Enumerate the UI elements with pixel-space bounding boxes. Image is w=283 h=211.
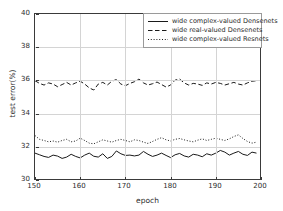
y-axis-tick-label: 30 [14, 175, 30, 184]
legend-label: wide real-valued Densenets [169, 26, 262, 35]
series-line-2 [35, 135, 256, 144]
x-axis-label: epoch [34, 196, 261, 205]
x-axis-tick-label: 180 [163, 182, 176, 191]
y-axis-tick [36, 14, 39, 15]
figure-canvas: 150160170180190200 303234363840 epoch te… [0, 0, 283, 211]
legend-item[interactable]: wide complex-valued Densenets [147, 17, 257, 26]
legend-item[interactable]: wide real-valued Densenets [147, 26, 257, 35]
y-axis-tick [36, 47, 39, 48]
legend-line-sample-dashed [147, 26, 169, 35]
y-axis-tick [36, 180, 39, 181]
x-axis-tick [171, 177, 172, 180]
gridline-horizontal [35, 147, 260, 148]
x-axis-tick-label: 170 [117, 182, 130, 191]
x-axis-tick [125, 177, 126, 180]
gridline-horizontal [35, 80, 260, 81]
x-axis-tick-label: 200 [253, 182, 266, 191]
x-axis-tick-label: 190 [208, 182, 221, 191]
gridline-vertical [125, 14, 126, 179]
x-axis-tick-label: 160 [72, 182, 85, 191]
y-axis-label: test error(%) [8, 54, 17, 134]
x-axis-tick [216, 177, 217, 180]
y-axis-tick-label: 40 [14, 9, 30, 18]
y-axis-tick-label: 38 [14, 42, 30, 51]
y-axis-tick [36, 147, 39, 148]
x-axis-tick [80, 177, 81, 180]
gridline-vertical [80, 14, 81, 179]
y-axis-tick [36, 114, 39, 115]
y-axis-tick [36, 80, 39, 81]
legend-line-sample-solid [147, 17, 169, 26]
chart-legend: wide complex-valued Densenets wide real-… [143, 13, 262, 48]
legend-label: wide complex-valued Resnets [169, 35, 269, 44]
x-axis-tick [261, 177, 262, 180]
legend-item[interactable]: wide complex-valued Resnets [147, 35, 257, 44]
gridline-horizontal [35, 114, 260, 115]
y-axis-tick-label: 32 [14, 142, 30, 151]
legend-line-sample-dotted [147, 35, 169, 44]
series-line-0 [35, 150, 256, 158]
legend-label: wide complex-valued Densenets [169, 17, 278, 26]
